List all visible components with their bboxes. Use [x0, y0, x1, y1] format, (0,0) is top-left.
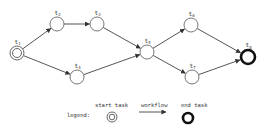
node-label-t8: t8: [246, 41, 253, 50]
edge-t4-to-t5: [84, 55, 140, 75]
legend: legend: start task workflow end task: [67, 102, 208, 123]
workflow-diagram: t1t2t3t4t5t6t7t8 legend: start task work…: [0, 0, 273, 131]
node-t4: t4: [70, 62, 84, 85]
start-task-node: t1: [10, 38, 24, 61]
legend-workflow-label: workflow: [141, 102, 168, 108]
node-label-t7: t7: [190, 62, 197, 71]
legend-title: legend:: [67, 112, 90, 119]
legend-end-task-icon: [183, 113, 193, 123]
edge-t7-to-t8: [199, 60, 240, 75]
node-label-t1: t1: [15, 38, 22, 47]
legend-start-task-icon: [107, 112, 117, 122]
end-task-node: t8: [241, 41, 255, 64]
edge-t6-to-t8: [197, 28, 240, 52]
node-label-t4: t4: [75, 62, 82, 71]
node-label-t6: t6: [189, 10, 196, 19]
edge-t5-to-t7: [153, 55, 185, 73]
legend-end-label: end task: [181, 102, 208, 108]
edge-t3-to-t5: [103, 27, 140, 48]
legend-start-label: start task: [95, 102, 129, 108]
node-label-t2: t2: [55, 9, 62, 18]
edge-t5-to-t6: [153, 29, 185, 48]
node-t3: t3: [90, 9, 104, 32]
edge-t1-to-t2: [23, 28, 51, 48]
node-t5: t5: [140, 37, 154, 60]
node-layer: t1t2t3t4t5t6t7t8: [10, 9, 255, 85]
node-t6: t6: [184, 10, 198, 33]
node-t7: t7: [185, 62, 199, 85]
node-label-t3: t3: [95, 9, 102, 18]
edge-layer: [23, 24, 241, 75]
node-t2: t2: [50, 9, 64, 32]
edge-t1-to-t4: [23, 56, 70, 75]
node-label-t5: t5: [145, 37, 152, 46]
